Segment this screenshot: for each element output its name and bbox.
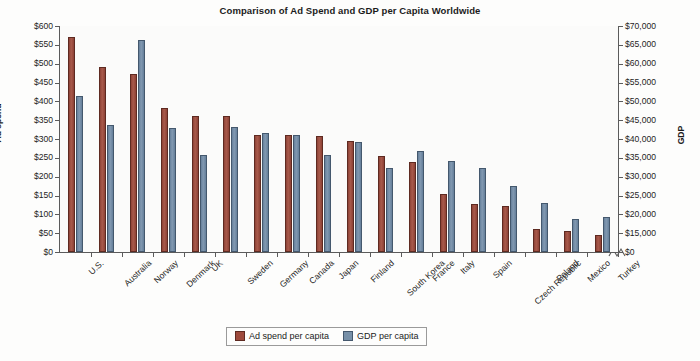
bar-gdp[interactable]: [355, 142, 362, 252]
bar-group: [254, 26, 269, 252]
y2-tick-label: $65,000: [625, 40, 697, 49]
bar-group: [99, 26, 114, 252]
bar-ad-spend[interactable]: [192, 116, 199, 252]
x-tick-label: Sweden: [245, 258, 275, 286]
bar-ad-spend[interactable]: [130, 74, 137, 252]
y-tick-mark: [55, 177, 59, 178]
bar-gdp[interactable]: [541, 203, 548, 252]
y-tick-mark: [55, 233, 59, 234]
y2-tick-mark: [619, 233, 623, 234]
legend-swatch-icon: [235, 331, 245, 341]
bar-ad-spend[interactable]: [347, 141, 354, 252]
y-tick-label: $50: [0, 229, 53, 238]
bar-ad-spend[interactable]: [223, 116, 230, 252]
bar-gdp[interactable]: [572, 219, 579, 252]
bar-gdp[interactable]: [386, 168, 393, 252]
y2-tick-mark: [619, 83, 623, 84]
plot-area: [60, 26, 618, 252]
legend-item-gdp[interactable]: GDP per capita: [343, 331, 418, 341]
y2-tick-label: $15,000: [625, 229, 697, 238]
bar-ad-spend[interactable]: [564, 231, 571, 252]
bar-gdp[interactable]: [417, 151, 424, 252]
x-tick-mark: [246, 253, 247, 257]
bar-group: [130, 26, 145, 252]
bar-ad-spend[interactable]: [378, 156, 385, 252]
bar-group: [595, 26, 610, 252]
x-tick-label: Australia: [122, 258, 153, 288]
bar-ad-spend[interactable]: [409, 162, 416, 252]
bar-gdp[interactable]: [479, 168, 486, 252]
y-tick-label: $300: [0, 135, 53, 144]
bar-ad-spend[interactable]: [533, 229, 540, 252]
bar-ad-spend[interactable]: [471, 204, 478, 252]
y-tick-label: $0: [0, 248, 53, 257]
legend-label: GDP per capita: [357, 331, 418, 341]
y2-tick-label: $50,000: [625, 97, 697, 106]
x-tick-mark: [308, 253, 309, 257]
x-tick-mark: [122, 253, 123, 257]
y2-tick-mark: [619, 45, 623, 46]
bar-gdp[interactable]: [324, 155, 331, 252]
bar-group: [533, 26, 548, 252]
bar-ad-spend[interactable]: [440, 194, 447, 252]
x-tick-label: Japan: [336, 258, 360, 281]
bar-group: [192, 26, 207, 252]
y-tick-mark: [55, 45, 59, 46]
bar-group: [161, 26, 176, 252]
x-tick-label: Italy: [458, 258, 476, 276]
y2-tick-mark: [619, 214, 623, 215]
y-tick-label: $200: [0, 172, 53, 181]
bar-gdp[interactable]: [138, 40, 145, 252]
y-tick-mark: [55, 139, 59, 140]
bar-gdp[interactable]: [200, 155, 207, 252]
y-tick-mark: [55, 120, 59, 121]
bar-gdp[interactable]: [169, 128, 176, 252]
y-tick-label: $350: [0, 116, 53, 125]
x-tick-mark: [587, 253, 588, 257]
y-tick-label: $500: [0, 59, 53, 68]
y-tick-mark: [55, 214, 59, 215]
x-tick-label: U.S.: [86, 258, 105, 277]
bar-ad-spend[interactable]: [502, 206, 509, 252]
bar-group: [378, 26, 393, 252]
bar-ad-spend[interactable]: [161, 108, 168, 252]
chart-legend: Ad spend per capita GDP per capita: [226, 327, 427, 346]
bar-ad-spend[interactable]: [285, 135, 292, 252]
bar-ad-spend[interactable]: [254, 135, 261, 252]
bar-ad-spend[interactable]: [99, 67, 106, 252]
x-tick-label: Germany: [277, 258, 310, 289]
y-tick-label: $400: [0, 97, 53, 106]
bar-ad-spend[interactable]: [316, 136, 323, 252]
y2-tick-mark: [619, 26, 623, 27]
x-tick-label: Finland: [369, 258, 396, 285]
bar-gdp[interactable]: [76, 96, 83, 252]
legend-item-ad-spend[interactable]: Ad spend per capita: [235, 331, 329, 341]
bar-group: [440, 26, 455, 252]
bar-gdp[interactable]: [262, 133, 269, 252]
x-tick-mark: [91, 253, 92, 257]
y-tick-label: $550: [0, 40, 53, 49]
bar-ad-spend[interactable]: [595, 235, 602, 252]
bar-gdp[interactable]: [231, 127, 238, 252]
legend-label: Ad spend per capita: [249, 331, 329, 341]
bar-gdp[interactable]: [448, 161, 455, 252]
chart-title: Comparison of Ad Spend and GDP per Capit…: [0, 5, 700, 16]
legend-swatch-icon: [343, 331, 353, 341]
x-tick-mark: [184, 253, 185, 257]
y2-tick-label: $40,000: [625, 135, 697, 144]
x-tick-mark: [618, 253, 619, 257]
bar-gdp[interactable]: [107, 125, 114, 252]
bar-gdp[interactable]: [603, 217, 610, 252]
bar-ad-spend[interactable]: [68, 37, 75, 252]
bar-gdp[interactable]: [293, 135, 300, 252]
x-tick-label: Turkey: [616, 258, 642, 283]
x-tick-mark: [525, 253, 526, 257]
y-tick-mark: [55, 158, 59, 159]
y2-tick-mark: [619, 196, 623, 197]
y2-tick-label: $0: [625, 248, 697, 257]
bar-group: [68, 26, 83, 252]
bar-group: [285, 26, 300, 252]
bar-gdp[interactable]: [510, 186, 517, 252]
y-tick-mark: [55, 252, 59, 253]
y-tick-label: $250: [0, 153, 53, 162]
